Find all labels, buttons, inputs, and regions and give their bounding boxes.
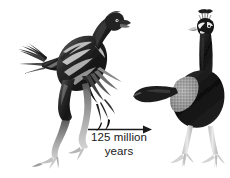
caption-line-1: 125 million: [72, 131, 166, 145]
peafowl-left-leg: [170, 125, 194, 167]
peafowl-right-leg: [201, 126, 225, 168]
time-caption: 125 million years: [72, 131, 166, 158]
evolution-figure: 125 million years: [0, 0, 230, 178]
caption-line-2: years: [72, 145, 166, 159]
dinosaur-head: [105, 11, 131, 31]
dinosaur-tail-feathers: [18, 43, 47, 74]
dinosaur-front-foot: [32, 157, 59, 169]
peafowl-head: [188, 18, 214, 36]
dinosaur-front-shank: [52, 120, 70, 159]
dinosaur-claws: [96, 99, 115, 131]
